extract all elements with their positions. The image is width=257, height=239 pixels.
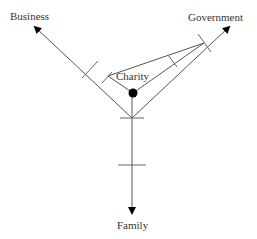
family-label: Family bbox=[117, 219, 149, 231]
connector-line bbox=[133, 43, 204, 93]
tick-mark bbox=[82, 61, 98, 78]
charity-node bbox=[129, 89, 138, 98]
government-label: Government bbox=[188, 11, 243, 23]
charity-label: Charity bbox=[116, 70, 149, 82]
triangle-diagram: Business Government Charity Family bbox=[0, 0, 257, 239]
business-label: Business bbox=[10, 10, 49, 22]
